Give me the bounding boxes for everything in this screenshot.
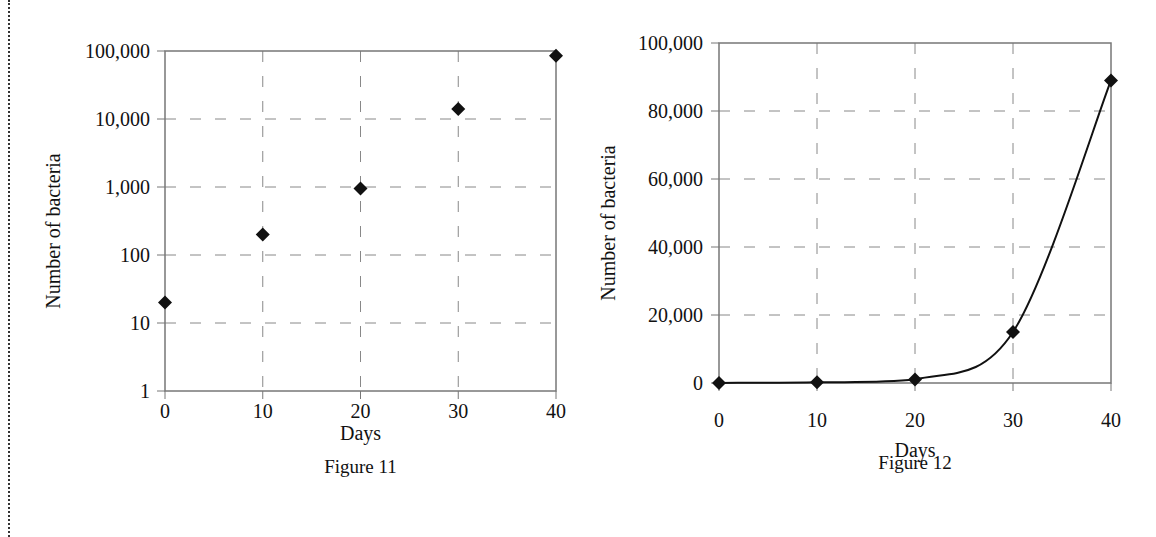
x-tick-label: 0 [160,400,170,422]
y-tick-label: 1,000 [105,176,150,198]
y-tick-label: 100,000 [638,32,703,54]
y-tick-label: 10,000 [95,108,150,130]
x-tick-label: 30 [448,400,468,422]
y-tick-label: 10 [130,312,150,334]
data-point-diamond-marker [908,373,922,387]
x-tick-label: 10 [807,409,827,431]
y-tick-label: 40,000 [648,236,703,258]
charts-canvas: 1101001,00010,000100,000010203040DaysNum… [0,0,1156,537]
data-point-diamond-marker [354,182,368,196]
y-axis-title: Number of bacteria [597,145,619,301]
y-tick-label: 20,000 [648,304,703,326]
y-tick-label: 80,000 [648,100,703,122]
data-point-diamond-marker [158,296,172,310]
y-tick-label: 100,000 [85,40,150,62]
x-tick-label: 20 [351,400,371,422]
y-tick-label: 1 [140,380,150,402]
x-tick-label: 40 [546,400,566,422]
figure-caption: Figure 11 [324,456,397,477]
x-tick-label: 0 [714,409,724,431]
data-point-diamond-marker [810,375,824,389]
x-tick-label: 10 [253,400,273,422]
data-point-diamond-marker [1104,73,1118,87]
figure-11: 1101001,00010,000100,000010203040DaysNum… [42,40,566,477]
figure-caption: Figure 12 [878,452,951,473]
data-point-diamond-marker [256,228,270,242]
x-axis-title: Days [340,422,381,445]
data-point-diamond-marker [1006,325,1020,339]
x-tick-label: 40 [1101,409,1121,431]
x-tick-label: 20 [905,409,925,431]
figure-12: 020,00040,00060,00080,000100,00001020304… [597,32,1121,473]
data-point-diamond-marker [712,376,726,390]
y-tick-label: 60,000 [648,168,703,190]
y-tick-label: 0 [693,372,703,394]
y-tick-label: 100 [120,244,150,266]
x-tick-label: 30 [1003,409,1023,431]
y-axis-title: Number of bacteria [42,153,64,309]
data-point-diamond-marker [451,102,465,116]
